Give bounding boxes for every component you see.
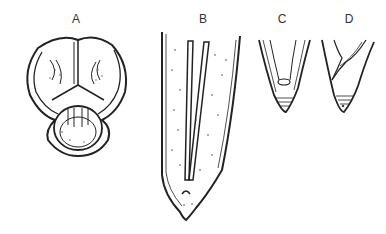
panel-b-drawing	[162, 32, 240, 220]
figure-drawing	[0, 0, 386, 234]
panel-d-drawing	[322, 40, 374, 112]
panel-a-drawing	[27, 37, 126, 156]
panel-c-drawing	[259, 40, 310, 112]
